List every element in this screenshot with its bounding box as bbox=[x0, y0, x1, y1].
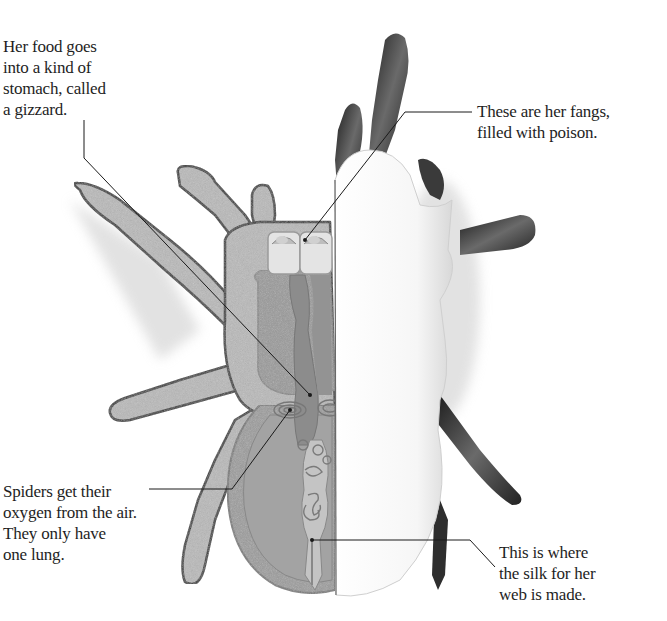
callout-line: web is made. bbox=[499, 584, 595, 605]
callout-line: stomach, called bbox=[3, 78, 106, 99]
callout-fangs: These are her fangs, filled with poison. bbox=[477, 101, 610, 143]
callout-line: a gizzard. bbox=[3, 99, 106, 120]
fang-glands bbox=[268, 232, 332, 274]
callout-line: Her food goes bbox=[3, 36, 106, 57]
callout-line: These are her fangs, bbox=[477, 101, 610, 122]
callout-line: This is where bbox=[499, 542, 595, 563]
callout-line: Spiders get their bbox=[3, 481, 137, 502]
callout-line: oxygen from the air. bbox=[3, 502, 137, 523]
callout-line: one lung. bbox=[3, 544, 137, 565]
callout-line: the silk for her bbox=[499, 563, 595, 584]
callout-line: filled with poison. bbox=[477, 122, 610, 143]
callout-line: They only have bbox=[3, 523, 137, 544]
callout-lung: Spiders get their oxygen from the air. T… bbox=[3, 481, 137, 565]
callout-line: into a kind of bbox=[3, 57, 106, 78]
callout-silk: This is where the silk for her web is ma… bbox=[499, 542, 595, 605]
callout-gizzard: Her food goes into a kind of stomach, ca… bbox=[3, 36, 106, 120]
